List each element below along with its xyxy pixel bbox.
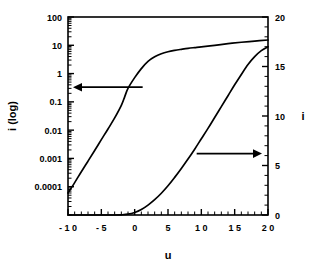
left-tick-label: 1 (57, 69, 62, 79)
x-tick-label: 0 (132, 223, 137, 233)
right-axis-title: i (301, 110, 304, 122)
right-tick-label: 0 (275, 211, 280, 221)
left-tick-label: 0.1 (49, 97, 62, 107)
left-tick-label: 0.001 (39, 154, 62, 164)
left-tick-label: 100 (47, 13, 62, 23)
left-tick-label: 10 (52, 41, 62, 51)
x-axis-title: u (165, 249, 172, 261)
right-tick-label: 20 (275, 13, 285, 23)
right-tick-label: 15 (275, 62, 285, 72)
left-tick-label: 0.01 (44, 126, 62, 136)
x-tick-label: 1 5 (228, 223, 241, 233)
right-tick-label: 10 (275, 112, 285, 122)
x-tick-label: 5 (165, 223, 170, 233)
right-tick-label: 5 (275, 161, 280, 171)
x-tick-label: - 1 0 (59, 223, 77, 233)
x-tick-label: 1 0 (195, 223, 208, 233)
chart-figure: - 1 0- 5051 01 52 0 1001010.10.010.0010.… (0, 0, 320, 267)
left-axis-title: i (log) (6, 101, 18, 131)
x-tick-label: - 5 (96, 223, 107, 233)
x-tick-label: 2 0 (262, 223, 275, 233)
left-tick-label: 0.0001 (34, 182, 62, 192)
